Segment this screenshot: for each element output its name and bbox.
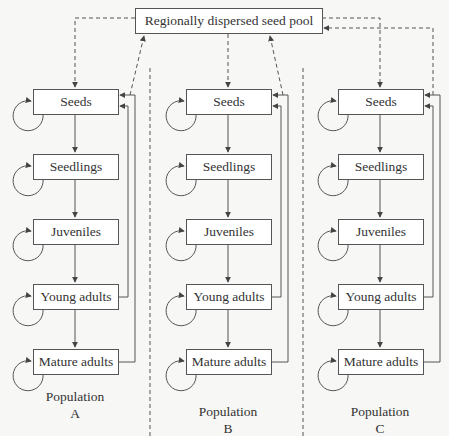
- pop-c-mature-adults-box: Mature adults: [338, 349, 424, 375]
- stage-label: Seeds: [60, 94, 92, 110]
- stage-label: Seeds: [213, 94, 245, 110]
- stage-label: Mature adults: [39, 354, 114, 370]
- stage-label: Young adults: [345, 289, 416, 305]
- population-letter: C: [330, 420, 430, 436]
- population-name: Population: [330, 403, 430, 420]
- pop-a-juveniles-box: Juveniles: [33, 219, 119, 245]
- pop-b-label: Population B: [178, 403, 278, 436]
- stage-label: Seedlings: [355, 159, 408, 175]
- stage-label: Juveniles: [51, 224, 101, 240]
- pop-b-juveniles-box: Juveniles: [186, 219, 272, 245]
- stage-label: Mature adults: [344, 354, 419, 370]
- pop-b-seeds-box: Seeds: [186, 89, 272, 115]
- pop-c-seedlings-box: Seedlings: [338, 154, 424, 180]
- pop-a-mature-adults-box: Mature adults: [33, 349, 119, 375]
- pop-a-young-adults-box: Young adults: [33, 284, 119, 310]
- pop-c-seeds-box: Seeds: [338, 89, 424, 115]
- pop-b-seedlings-box: Seedlings: [186, 154, 272, 180]
- pop-c-juveniles-box: Juveniles: [338, 219, 424, 245]
- population-name: Population: [178, 403, 278, 420]
- population-name: Population: [25, 388, 125, 405]
- pop-c-young-adults-box: Young adults: [338, 284, 424, 310]
- pop-a-seedlings-box: Seedlings: [33, 154, 119, 180]
- pop-a-label: Population A: [25, 388, 125, 422]
- stage-label: Seedlings: [50, 159, 103, 175]
- pop-b-young-adults-box: Young adults: [186, 284, 272, 310]
- pop-b-mature-adults-box: Mature adults: [186, 349, 272, 375]
- stage-label: Young adults: [40, 289, 111, 305]
- stage-label: Juveniles: [204, 224, 254, 240]
- seed-pool-label: Regionally dispersed seed pool: [145, 13, 313, 29]
- stage-label: Seeds: [365, 94, 397, 110]
- population-letter: B: [178, 420, 278, 436]
- stage-label: Young adults: [193, 289, 264, 305]
- stage-label: Seedlings: [203, 159, 256, 175]
- population-letter: A: [25, 405, 125, 422]
- pop-a-seeds-box: Seeds: [33, 89, 119, 115]
- stage-label: Mature adults: [192, 354, 267, 370]
- stage-label: Juveniles: [356, 224, 406, 240]
- pop-c-label: Population C: [330, 403, 430, 436]
- seed-pool-box: Regionally dispersed seed pool: [135, 8, 323, 34]
